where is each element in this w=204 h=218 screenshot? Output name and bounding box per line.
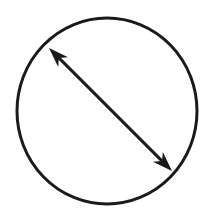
diameter-arrow-shaft [59, 58, 162, 161]
diagram-canvas [0, 0, 204, 218]
circle-diameter-figure [0, 0, 204, 218]
circle-outline [17, 18, 197, 204]
